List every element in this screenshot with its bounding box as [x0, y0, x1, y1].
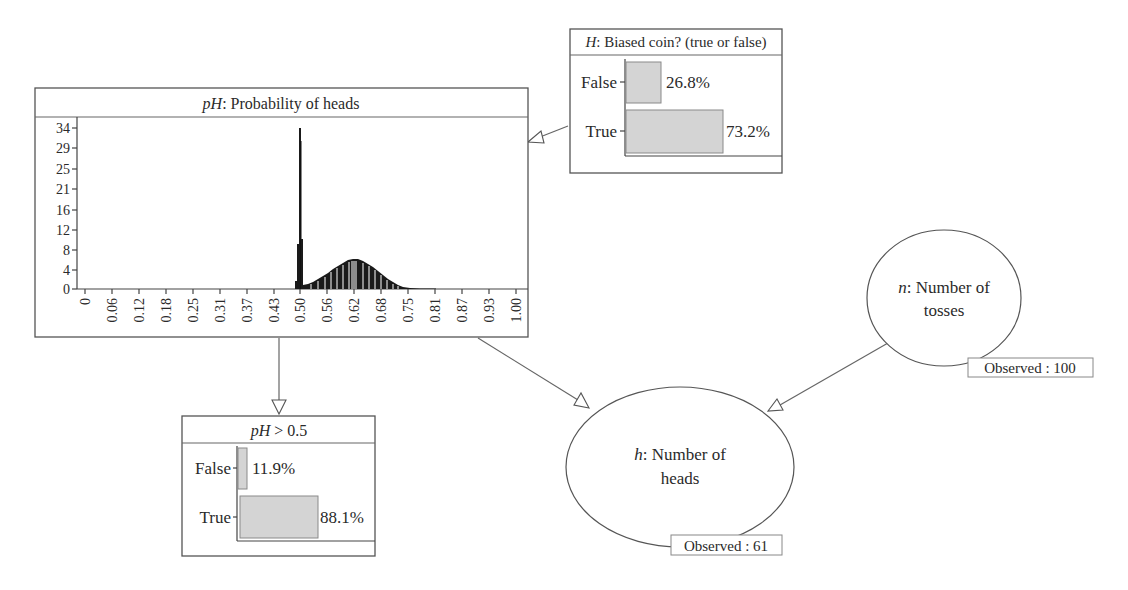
node-title-line2: heads — [661, 469, 700, 488]
node-title-line1: n: Number of — [898, 278, 990, 297]
svg-text:12: 12 — [56, 223, 70, 238]
svg-text:0.06: 0.06 — [105, 298, 120, 323]
arrowhead-icon — [768, 399, 783, 411]
svg-text:0.37: 0.37 — [240, 298, 255, 323]
node-ph-greater-than-half[interactable]: pH > 0.5 False 11.9% True 88.1% — [182, 416, 375, 556]
probability-bar-true — [626, 110, 723, 153]
bayesian-network-diagram: H: Biased coin? (true or false) False 26… — [0, 0, 1128, 590]
state-label-true: True — [200, 508, 232, 527]
observed-value: Observed : 100 — [984, 360, 1076, 376]
edge-num-tosses-to-num-heads — [768, 343, 888, 411]
svg-text:0.12: 0.12 — [132, 298, 147, 323]
svg-text:16: 16 — [56, 203, 70, 218]
svg-text:0.25: 0.25 — [186, 298, 201, 323]
arrowhead-icon — [272, 400, 286, 414]
svg-text:21: 21 — [56, 182, 70, 197]
node-biased-coin[interactable]: H: Biased coin? (true or false) False 26… — [570, 29, 782, 173]
svg-text:25: 25 — [56, 162, 70, 177]
svg-text:0.93: 0.93 — [482, 298, 497, 323]
node-title-line2: tosses — [924, 301, 965, 320]
edge-prob-heads-to-num-heads — [478, 338, 589, 408]
svg-text:0.56: 0.56 — [320, 298, 335, 323]
edge-prob-heads-to-threshold — [272, 338, 286, 414]
svg-text:0.68: 0.68 — [374, 298, 389, 323]
state-label-false: False — [581, 73, 617, 92]
state-value-false: 11.9% — [252, 459, 295, 478]
probability-bar-false — [238, 448, 247, 489]
arrowhead-icon — [528, 131, 544, 143]
svg-text:0.62: 0.62 — [347, 298, 362, 323]
svg-text:0.87: 0.87 — [455, 298, 470, 323]
svg-text:34: 34 — [56, 121, 70, 136]
svg-text:0.31: 0.31 — [213, 298, 228, 323]
observed-value: Observed : 61 — [684, 538, 768, 554]
svg-text:0.50: 0.50 — [293, 298, 308, 323]
svg-text:0: 0 — [78, 298, 93, 305]
svg-text:0.75: 0.75 — [401, 298, 416, 323]
probability-bar-true — [240, 496, 318, 538]
node-num-heads[interactable]: h: Number of heads Observed : 61 — [566, 387, 794, 555]
node-title: H: Biased coin? (true or false) — [584, 34, 766, 51]
state-value-false: 26.8% — [666, 73, 710, 92]
svg-text:29: 29 — [56, 141, 70, 156]
arrowhead-icon — [574, 393, 589, 408]
node-title: pH > 0.5 — [250, 422, 308, 440]
svg-text:4: 4 — [63, 263, 70, 278]
probability-bar-false — [626, 62, 661, 103]
svg-text:0.43: 0.43 — [267, 298, 282, 323]
svg-text:0.81: 0.81 — [428, 298, 443, 323]
svg-text:1.00: 1.00 — [509, 298, 524, 323]
state-value-true: 88.1% — [320, 508, 364, 527]
svg-text:8: 8 — [63, 243, 70, 258]
edge-biased-coin-to-prob-heads — [528, 126, 568, 143]
svg-text:0: 0 — [63, 282, 70, 297]
svg-text:0.18: 0.18 — [159, 298, 174, 323]
state-label-false: False — [195, 459, 231, 478]
node-num-tosses[interactable]: n: Number of tosses Observed : 100 — [867, 230, 1093, 377]
state-value-true: 73.2% — [726, 122, 770, 141]
state-label-true: True — [586, 122, 618, 141]
node-prob-heads[interactable]: pH: Probability of heads 34 29 25 21 16 … — [35, 88, 528, 337]
node-title: pH: Probability of heads — [202, 95, 360, 113]
node-title-line1: h: Number of — [634, 445, 726, 464]
